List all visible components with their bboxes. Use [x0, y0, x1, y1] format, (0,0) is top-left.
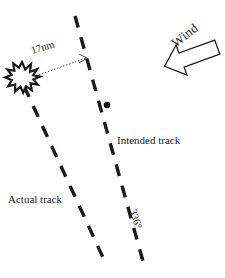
- scan-artifact: [58, 1, 61, 9]
- actual-track-label: Actual track: [8, 194, 62, 205]
- track-diagram: Intended track Actual track 17nm 336° Wi…: [0, 0, 225, 278]
- distance-measure-line: [33, 58, 86, 77]
- distance-arrowhead: [79, 54, 87, 63]
- position-dot: [104, 102, 111, 109]
- intended-track-label: Intended track: [117, 135, 180, 146]
- diagram-canvas: [0, 0, 225, 278]
- actual-track-line: [24, 86, 106, 264]
- crash-starburst-icon: [5, 62, 40, 93]
